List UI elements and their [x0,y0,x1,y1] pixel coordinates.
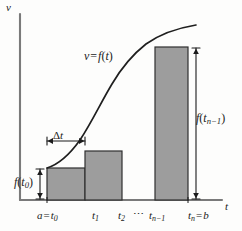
riemann-sum-figure: v t v=f(t) Δt f(t0) f(tn−1) a=t0 t1 t2 ⋯… [0,0,242,231]
f-tn-minus-1-label: f(tn−1) [196,112,225,126]
x-tick-label-t1: t1 [92,210,99,223]
delta-t-label: Δt [53,130,63,141]
x-tick-label-t2: t2 [118,210,125,223]
f-t0-label: f(t0) [14,176,33,190]
curve-equation-label: v=f(t) [84,50,113,62]
x-tick-label-tn-minus-1: tn−1 [149,210,165,223]
f-t0-measure-arrow [36,169,44,199]
x-tick-ellipsis: ⋯ [133,209,145,220]
y-axis-label: v [6,2,11,13]
riemann-bar-n [155,47,188,200]
x-tick-label-tn-equals-b: tn=b [188,210,209,223]
x-axis-label: t [225,201,228,212]
riemann-bar-1 [47,168,85,200]
riemann-bar-2 [85,151,122,200]
x-tick-label-a-equals-t0: a=t0 [37,210,58,223]
